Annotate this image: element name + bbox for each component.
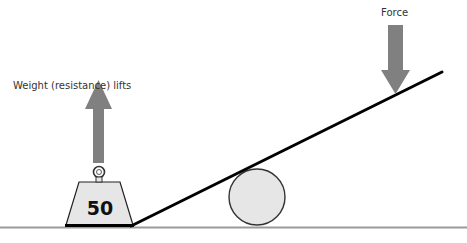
force-label: Force — [381, 7, 408, 18]
lever-diagram — [0, 0, 467, 243]
lever-bar — [131, 72, 442, 226]
weight-label: Weight (resistance) lifts — [13, 80, 131, 91]
force-down-arrow-icon — [381, 25, 410, 94]
ring-icon — [94, 167, 105, 178]
weight-up-arrow-icon — [85, 80, 112, 163]
fulcrum-circle — [229, 169, 285, 225]
weight-value: 50 — [82, 197, 118, 219]
